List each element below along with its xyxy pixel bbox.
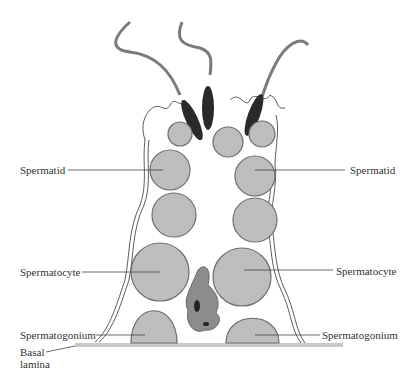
label-spermatogonium-right: Spermatogonium [322,329,398,341]
round-spermatid-left [152,193,196,237]
label-spermatid-right: Spermatid [350,164,395,176]
spermatid-cell-right [235,156,275,196]
basal-lamina [75,343,343,347]
label-spermatogonium-left: Spermatogonium [20,329,96,341]
spermatogonium-left [131,311,177,343]
label-spermatid-left: Spermatid [20,164,65,176]
label-basal-lamina: Basal lamina [20,346,50,370]
early-spermatid [249,121,275,147]
early-spermatid [168,122,192,146]
spermatocyte-right [213,248,271,306]
sperm-head [202,86,214,130]
spermatozoa [116,22,308,142]
label-spermatocyte-right: Spermatocyte [336,265,396,277]
label-basal: Basal [20,346,50,358]
label-spermatocyte-left: Spermatocyte [20,266,80,278]
early-spermatid [213,127,243,157]
label-lamina: lamina [20,358,50,370]
diagram-canvas [0,0,418,379]
spermatogonium-right [226,318,279,343]
round-spermatid-right [233,198,277,242]
